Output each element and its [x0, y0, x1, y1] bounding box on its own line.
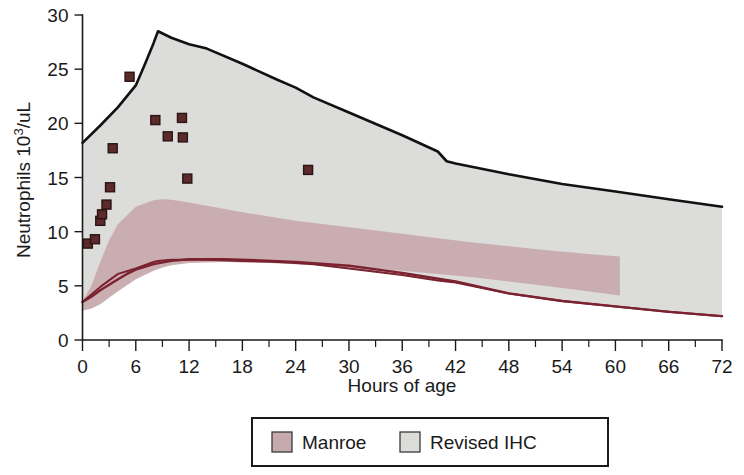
scatter-point — [98, 210, 107, 219]
x-tick-label: 30 — [338, 356, 359, 377]
x-axis-title: Hours of age — [348, 375, 457, 396]
scatter-point — [304, 165, 313, 174]
scatter-point — [178, 133, 187, 142]
y-tick-label: 15 — [47, 168, 68, 189]
scatter-point — [90, 235, 99, 244]
x-tick-label: 24 — [285, 356, 307, 377]
chart-figure: 051015202530061218243036424854606672 Neu… — [0, 0, 744, 475]
chart-legend: Manroe Revised IHC — [252, 418, 608, 466]
scatter-point — [151, 116, 160, 125]
legend-item-manroe: Manroe — [272, 432, 366, 453]
legend-label-manroe: Manroe — [302, 432, 366, 453]
legend-label-revised-ihc: Revised IHC — [430, 432, 537, 453]
x-tick-label: 0 — [77, 356, 88, 377]
scatter-point — [183, 174, 192, 183]
y-tick-label: 30 — [47, 5, 68, 26]
x-tick-label: 42 — [445, 356, 466, 377]
y-tick-label: 10 — [47, 222, 68, 243]
y-tick-label: 5 — [58, 276, 69, 297]
x-tick-label: 18 — [232, 356, 253, 377]
x-tick-label: 54 — [552, 356, 574, 377]
x-tick-label: 48 — [498, 356, 519, 377]
y-axis-title: Neutrophils 103/uL — [11, 102, 34, 258]
scatter-point — [163, 132, 172, 141]
scatter-point — [102, 200, 111, 209]
x-tick-label: 6 — [131, 356, 142, 377]
x-tick-label: 36 — [392, 356, 413, 377]
scatter-point — [106, 183, 115, 192]
y-tick-label: 25 — [47, 59, 68, 80]
x-tick-label: 66 — [658, 356, 679, 377]
y-tick-label: 20 — [47, 113, 68, 134]
x-tick-label: 12 — [179, 356, 200, 377]
scatter-point — [125, 72, 134, 81]
x-tick-label: 60 — [605, 356, 626, 377]
scatter-point — [108, 144, 117, 153]
legend-item-revised-ihc: Revised IHC — [400, 432, 537, 453]
x-tick-label: 72 — [711, 356, 732, 377]
neutrophil-reference-range-chart: 051015202530061218243036424854606672 Neu… — [0, 0, 744, 475]
legend-swatch-icon — [400, 432, 420, 452]
legend-swatch-icon — [272, 432, 292, 452]
scatter-point — [177, 113, 186, 122]
y-tick-label: 0 — [58, 330, 69, 351]
